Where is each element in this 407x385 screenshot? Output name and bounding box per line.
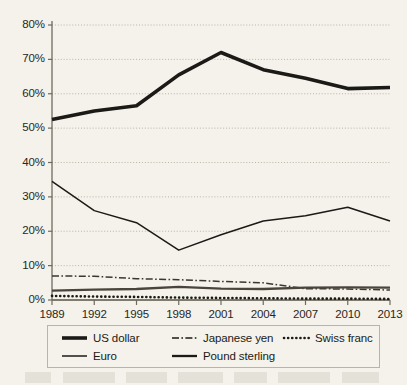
legend-item-euro[interactable]: Euro (93, 348, 117, 364)
axis-ticks-group (48, 25, 390, 305)
legend-item-pound-sterling[interactable]: Pound sterling (203, 348, 275, 364)
y-axis-tick-label: 60% (22, 87, 45, 99)
y-axis-tick-label: 70% (22, 52, 45, 64)
legend-item-label: Japanese yen (203, 332, 273, 344)
x-axis-tick-label: 1989 (30, 308, 74, 320)
x-axis-tick-label: 2001 (199, 308, 243, 320)
y-axis-tick-label: 0% (29, 293, 45, 305)
axes-group (52, 21, 390, 300)
series-line-euro (52, 181, 390, 250)
series-line-swiss-franc (52, 296, 390, 299)
x-axis-tick-label: 2004 (241, 308, 285, 320)
y-axis-tick-label: 30% (22, 190, 45, 202)
x-axis-tick-label: 1992 (72, 308, 116, 320)
y-axis-tick-label: 40% (22, 156, 45, 168)
gridlines-group (52, 25, 390, 300)
y-axis-tick-label: 20% (22, 224, 45, 236)
x-axis-tick-label: 2010 (326, 308, 370, 320)
legend-item-japanese-yen[interactable]: Japanese yen (203, 330, 273, 346)
y-axis-tick-label: 50% (22, 121, 45, 133)
x-axis-tick-label: 1998 (157, 308, 201, 320)
series-paths-group (52, 53, 390, 299)
legend-item-us-dollar[interactable]: US dollar (93, 330, 139, 346)
y-axis-tick-label: 10% (22, 259, 45, 271)
x-axis-tick-label: 2007 (284, 308, 328, 320)
legend-item-label: Swiss franc (315, 332, 373, 344)
legend-item-label: US dollar (93, 332, 139, 344)
y-axis-tick-label: 80% (22, 18, 45, 30)
legend-item-swiss-franc[interactable]: Swiss franc (315, 330, 373, 346)
x-axis-tick-label: 1995 (115, 308, 159, 320)
chart-legend: US dollarEuroJapanese yenPound sterlingS… (47, 325, 380, 368)
page-text-smudge (18, 372, 390, 383)
currency-share-line-chart: 80%70%60%50%40%30%20%10%0% 1989199219951… (0, 0, 407, 385)
legend-item-label: Pound sterling (203, 350, 275, 362)
x-axis-tick-label: 2013 (368, 308, 407, 320)
legend-item-label: Euro (93, 350, 117, 362)
series-line-us-dollar (52, 53, 390, 120)
